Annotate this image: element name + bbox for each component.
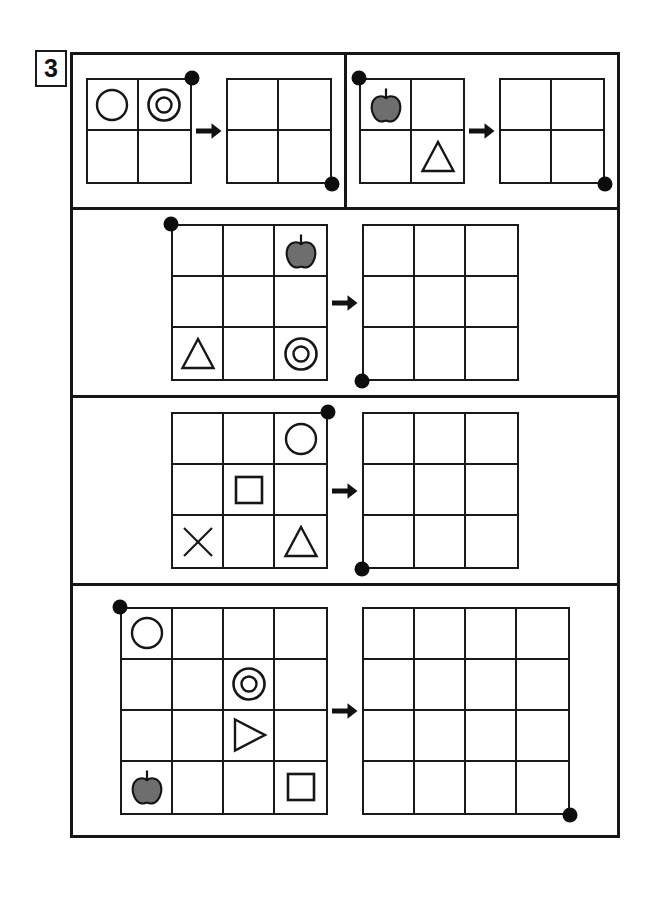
cell-apple-shape[interactable] — [122, 762, 173, 813]
corner-marker-dot — [563, 807, 578, 822]
cell-empty[interactable] — [412, 80, 463, 131]
cell-empty[interactable] — [173, 660, 224, 711]
cell-right-triangle-shape[interactable] — [224, 711, 275, 762]
cell-empty[interactable] — [364, 465, 415, 516]
cell-empty[interactable] — [139, 131, 190, 182]
arrow-right-icon — [465, 116, 499, 146]
cell-triangle-shape[interactable] — [275, 516, 326, 567]
cell-empty[interactable] — [364, 711, 415, 762]
cell-empty[interactable] — [517, 660, 568, 711]
target-grid — [499, 78, 605, 184]
cell-empty[interactable] — [415, 660, 466, 711]
grid — [226, 78, 332, 184]
cell-empty[interactable] — [224, 516, 275, 567]
cell-empty[interactable] — [466, 711, 517, 762]
cell-empty[interactable] — [415, 465, 466, 516]
cell-empty[interactable] — [228, 131, 279, 182]
cell-empty[interactable] — [279, 131, 330, 182]
cell-empty[interactable] — [275, 609, 326, 660]
cell-concentric-circles-shape[interactable] — [275, 328, 326, 379]
cell-empty[interactable] — [224, 609, 275, 660]
cell-empty[interactable] — [364, 516, 415, 567]
cell-square-shape[interactable] — [275, 762, 326, 813]
cell-empty[interactable] — [466, 762, 517, 813]
triangle-shape — [281, 522, 321, 562]
cell-empty[interactable] — [466, 609, 517, 660]
cell-concentric-circles-shape[interactable] — [139, 80, 190, 131]
cell-empty[interactable] — [466, 328, 517, 379]
cell-empty[interactable] — [275, 660, 326, 711]
cell-empty[interactable] — [364, 414, 415, 465]
cell-empty[interactable] — [415, 762, 466, 813]
cell-triangle-shape[interactable] — [412, 131, 463, 182]
exercise-number: 3 — [44, 56, 58, 81]
cell-empty[interactable] — [88, 131, 139, 182]
cell-empty[interactable] — [501, 80, 552, 131]
cell-empty[interactable] — [466, 277, 517, 328]
cell-empty[interactable] — [466, 414, 517, 465]
cell-empty[interactable] — [364, 226, 415, 277]
cell-empty[interactable] — [415, 609, 466, 660]
cell-empty[interactable] — [415, 711, 466, 762]
cell-circle-shape[interactable] — [275, 414, 326, 465]
corner-marker-dot — [324, 177, 339, 192]
cell-empty[interactable] — [364, 762, 415, 813]
circle-shape — [281, 419, 321, 459]
cell-empty[interactable] — [415, 414, 466, 465]
cell-empty[interactable] — [415, 516, 466, 567]
cell-empty[interactable] — [517, 609, 568, 660]
cell-empty[interactable] — [224, 226, 275, 277]
cell-empty[interactable] — [364, 328, 415, 379]
cell-empty[interactable] — [275, 277, 326, 328]
cell-empty[interactable] — [361, 131, 412, 182]
cell-empty[interactable] — [466, 465, 517, 516]
cell-empty[interactable] — [517, 711, 568, 762]
cell-empty[interactable] — [173, 465, 224, 516]
cell-empty[interactable] — [552, 80, 603, 131]
cell-empty[interactable] — [228, 80, 279, 131]
cell-empty[interactable] — [173, 609, 224, 660]
target-grid — [362, 607, 570, 815]
panel-2-pair — [359, 78, 605, 184]
cell-empty[interactable] — [364, 660, 415, 711]
cell-empty[interactable] — [173, 414, 224, 465]
cell-empty[interactable] — [224, 328, 275, 379]
cell-empty[interactable] — [173, 711, 224, 762]
cell-empty[interactable] — [415, 328, 466, 379]
cell-empty[interactable] — [122, 660, 173, 711]
cell-empty[interactable] — [415, 226, 466, 277]
cell-empty[interactable] — [364, 277, 415, 328]
cell-apple-shape[interactable] — [361, 80, 412, 131]
source-grid — [120, 607, 328, 815]
source-grid — [171, 412, 328, 569]
cell-square-shape[interactable] — [224, 465, 275, 516]
cell-concentric-circles-shape[interactable] — [224, 660, 275, 711]
panel-4 — [73, 398, 617, 586]
cell-empty[interactable] — [415, 277, 466, 328]
cell-empty[interactable] — [173, 226, 224, 277]
cell-circle-shape[interactable] — [88, 80, 139, 131]
cell-empty[interactable] — [173, 277, 224, 328]
cell-empty[interactable] — [552, 131, 603, 182]
cell-circle-shape[interactable] — [122, 609, 173, 660]
cell-empty[interactable] — [122, 711, 173, 762]
cell-empty[interactable] — [224, 414, 275, 465]
cell-empty[interactable] — [364, 609, 415, 660]
cell-x-cross-shape[interactable] — [173, 516, 224, 567]
cell-empty[interactable] — [466, 516, 517, 567]
apple-shape — [127, 767, 167, 807]
cell-empty[interactable] — [517, 762, 568, 813]
cell-empty[interactable] — [275, 711, 326, 762]
cell-empty[interactable] — [224, 277, 275, 328]
cell-empty[interactable] — [279, 80, 330, 131]
cell-empty[interactable] — [275, 465, 326, 516]
cell-empty[interactable] — [501, 131, 552, 182]
cell-apple-shape[interactable] — [275, 226, 326, 277]
cell-empty[interactable] — [224, 762, 275, 813]
cell-empty[interactable] — [173, 762, 224, 813]
concentric-circles-shape — [144, 85, 184, 125]
cell-triangle-shape[interactable] — [173, 328, 224, 379]
cell-empty[interactable] — [466, 226, 517, 277]
cell-empty[interactable] — [466, 660, 517, 711]
panel-1-pair — [86, 78, 332, 184]
